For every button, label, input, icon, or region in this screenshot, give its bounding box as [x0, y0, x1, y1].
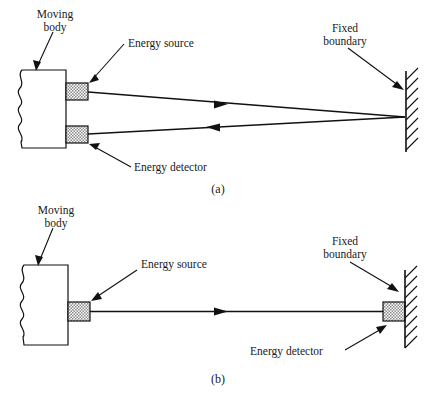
moving-body-label-a-line2: body — [44, 21, 67, 34]
moving-body-label-a-line1: Moving — [37, 8, 74, 21]
energy-source-block-a — [66, 83, 88, 100]
fixed-boundary-label-a-line1: Fixed — [332, 22, 358, 34]
energy-detector-leader-arrow-b — [376, 325, 387, 334]
energy-detector-leader-b — [345, 328, 383, 350]
fixed-boundary-leader-a — [348, 48, 399, 86]
energy-detector-label-b: Energy detector — [250, 345, 323, 358]
moving-body-label-b-line2: body — [45, 217, 68, 230]
moving-body-a — [18, 70, 66, 148]
energy-source-leader-a — [92, 44, 124, 80]
returning-beam-arrow-a — [206, 124, 220, 132]
energy-detector-label-a: Energy detector — [134, 161, 207, 174]
moving-body-b — [20, 265, 68, 345]
diagram-svg: Moving body Energy source Energy detecto… — [0, 0, 437, 400]
panel-caption-a: (a) — [211, 182, 224, 196]
energy-detector-block-b — [383, 302, 405, 321]
panel-a — [18, 32, 418, 167]
moving-body-label-b-line1: Moving — [38, 204, 75, 217]
outgoing-beam-a — [88, 92, 405, 117]
through-beam-arrow-b — [214, 308, 228, 316]
energy-detector-block-a — [66, 126, 88, 143]
energy-source-leader-arrow-b — [91, 292, 102, 301]
energy-detector-leader-a — [93, 146, 131, 167]
panel-caption-b: (b) — [211, 372, 225, 386]
fixed-boundary-hatch-a — [406, 68, 418, 150]
fixed-boundary-leader-b — [350, 262, 394, 288]
fixed-boundary-label-a-line2: boundary — [323, 35, 367, 48]
energy-source-leader-b — [95, 270, 137, 298]
fixed-boundary-hatch-b — [405, 266, 417, 348]
energy-source-block-b — [68, 302, 90, 321]
outgoing-beam-arrow-a — [214, 101, 228, 109]
figure-container: Moving body Energy source Energy detecto… — [0, 0, 437, 400]
fixed-boundary-label-b-line2: boundary — [323, 248, 367, 261]
energy-source-label-b: Energy source — [141, 258, 207, 271]
returning-beam-a — [88, 117, 405, 134]
energy-source-leader-arrow-a — [89, 74, 99, 83]
fixed-boundary-label-b-line1: Fixed — [332, 235, 358, 247]
energy-source-label-a: Energy source — [128, 37, 194, 50]
moving-body-leader-arrow-b — [35, 255, 43, 266]
